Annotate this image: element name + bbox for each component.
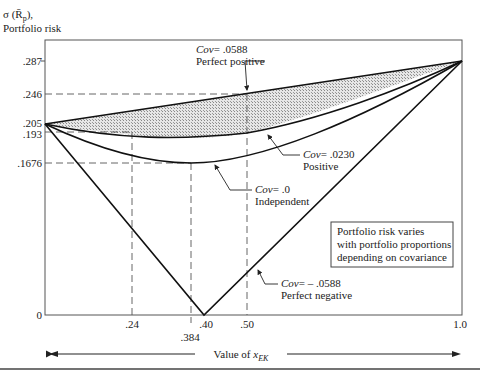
note-line-2: with portfolio proportions xyxy=(337,238,451,250)
label-independent-cov: Cov= .0 xyxy=(255,183,290,195)
arrowhead-left-icon xyxy=(49,351,58,357)
svg-text:.246: .246 xyxy=(23,88,43,100)
y-axis-symbol: σ (R̄p), xyxy=(3,8,33,23)
label-positive-cov: Cov= .0230 xyxy=(303,148,355,160)
label-independent: Independent xyxy=(255,195,309,207)
svg-text:.287: .287 xyxy=(23,55,43,67)
x-tick-labels: .24 .384 .40 .50 1.0 xyxy=(125,318,467,343)
svg-text:.24: .24 xyxy=(125,318,139,330)
y-tick-labels: .287 .246 .205 .193 .1676 0 xyxy=(17,55,42,321)
pointer-perfect-negative xyxy=(258,270,278,284)
svg-text:.50: .50 xyxy=(240,318,254,330)
note-line-1: Portfolio risk varies xyxy=(337,225,424,237)
label-positive: Positive xyxy=(303,160,339,172)
svg-text:.1676: .1676 xyxy=(17,157,42,169)
svg-text:0: 0 xyxy=(37,309,43,321)
shaded-region xyxy=(45,61,462,138)
svg-text:1.0: 1.0 xyxy=(453,318,467,330)
svg-text:.193: .193 xyxy=(23,128,43,140)
svg-text:.40: .40 xyxy=(199,318,213,330)
portfolio-risk-chart: σ (R̄p), Portfolio risk .287 .246 .205 .… xyxy=(0,0,480,373)
label-perfect-negative-cov: Cov= – .0588 xyxy=(281,277,341,289)
label-perfect-negative: Perfect negative xyxy=(281,289,352,301)
label-perfect-positive-cov: Cov= .0588 xyxy=(196,43,248,55)
svg-text:.384: .384 xyxy=(180,331,200,343)
pointer-independent xyxy=(215,165,252,190)
x-axis-title: Value of xEK xyxy=(214,348,269,363)
arrowhead-right-icon xyxy=(452,351,461,357)
y-axis-title: Portfolio risk xyxy=(3,22,62,34)
note-line-3: depending on covariance xyxy=(337,251,447,263)
